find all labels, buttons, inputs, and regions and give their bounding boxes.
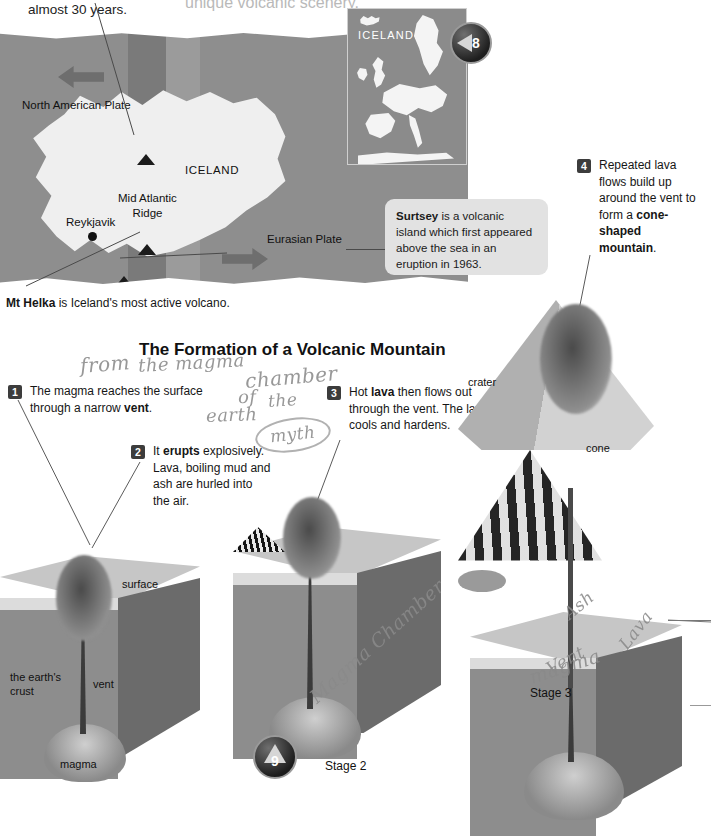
mt-helka-caption: Mt Helka is Iceland's most active volcan…: [6, 296, 230, 310]
stage3-crater-notch: [458, 570, 506, 592]
stage-1-diagram: surface the earth's crust vent magma: [0, 556, 222, 779]
surtsey-leader-line: [346, 249, 390, 250]
surtsey-callout-bold: Surtsey: [396, 210, 438, 222]
step-2: 2 It erupts explosively. Lava, boiling m…: [131, 443, 271, 509]
step-1-number: 1: [8, 385, 22, 399]
top-continuation-text: almost 30 years.: [28, 2, 127, 17]
mt-helka-caption-bold: Mt Helka: [6, 296, 55, 310]
stage2-crust-band: [233, 573, 357, 585]
ridge-label-line2: Ridge: [132, 207, 162, 219]
step-4-text: Repeated lava flows build up around the …: [599, 157, 699, 256]
step-2-text: It erupts explosively. Lava, boiling mud…: [153, 443, 271, 509]
step-4: 4 Repeated lava flows build up around th…: [577, 157, 699, 256]
stage1-label-earths-crust: the earth's crust: [10, 670, 61, 698]
stage1-label-vent: vent: [93, 678, 114, 690]
map-label-north-american-plate: North American Plate: [22, 99, 131, 111]
page-edge-line: [668, 620, 711, 621]
triangle-left-icon: [457, 34, 472, 52]
inset-scandinavia-shape: [406, 15, 450, 85]
step-1: 1 The magma reaches the surface through …: [8, 383, 238, 416]
inset-label-iceland: ICELAND: [358, 29, 414, 41]
step-4-number: 4: [577, 159, 591, 173]
inset-italy-shape: [406, 115, 424, 149]
inset-ireland-shape: [356, 67, 369, 82]
step-3-number: 3: [327, 386, 341, 400]
stage1-label-surface: surface: [122, 578, 158, 590]
stage1-label-magma: magma: [60, 758, 97, 770]
handwriting-the: the: [267, 389, 298, 411]
stage2-caption: Stage 2: [325, 759, 366, 773]
handwriting-from: from: [79, 350, 131, 377]
mt-helka-caption-rest: is Iceland's most active volcano.: [55, 296, 229, 310]
crust-label-line1: the earth's: [10, 671, 61, 683]
handwriting-the-magma: the magma: [138, 349, 246, 376]
europe-inset-map: ICELAND: [347, 8, 467, 165]
volcano-marker-icon: [138, 244, 156, 255]
page-badge-8: 8: [450, 22, 492, 64]
inset-iberia-shape: [364, 113, 398, 143]
inset-britain-shape: [368, 57, 390, 89]
map-label-mid-atlantic-ridge: Mid Atlantic Ridge: [118, 191, 177, 221]
step-2-number: 2: [131, 445, 145, 459]
handwriting-chamber: chamber: [244, 361, 338, 393]
page-edge-line-secondary: [690, 705, 711, 706]
map-label-eurasian-plate: Eurasian Plate: [267, 233, 342, 245]
volcano-marker-icon: [137, 154, 155, 165]
stage1-block-side: [118, 578, 200, 756]
map-label-reykjavik: Reykjavik: [66, 216, 115, 228]
map-label-iceland: ICELAND: [185, 164, 239, 176]
stage3-label-crater: crater: [468, 376, 496, 388]
page-badge-9: 9: [253, 735, 297, 779]
top-faded-text: unique volcanic scenery.: [185, 0, 359, 12]
inset-iceland-shape: [358, 15, 380, 26]
ridge-label-line1: Mid Atlantic: [118, 192, 177, 204]
stage3-ash-cloud: [540, 304, 612, 414]
leader-line-step1: [18, 400, 90, 545]
page-badge-9-number: 9: [271, 753, 279, 769]
crust-label-line2: crust: [10, 685, 34, 697]
stage3-lava-strata-layers: [458, 450, 602, 570]
stage2-ash-cloud: [283, 497, 341, 579]
page-badge-8-number: 8: [472, 35, 480, 51]
reykjavik-city-dot: [88, 232, 97, 241]
stage3-caption: Stage 3: [530, 686, 571, 700]
surtsey-callout-box: Surtsey is a volcanic island which first…: [385, 199, 548, 275]
inset-north-africa-shape: [358, 149, 454, 165]
stage1-ash-cloud: [56, 555, 112, 641]
stage3-label-cone: cone: [586, 442, 610, 454]
handwriting-earth: earth: [206, 403, 258, 426]
